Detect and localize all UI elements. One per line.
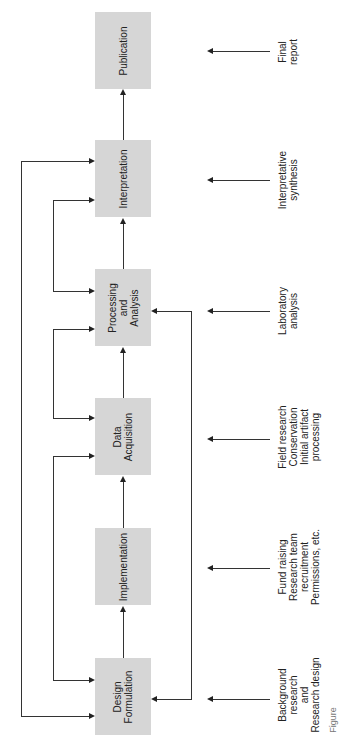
stage-label: Design Formulation: [112, 670, 134, 723]
stage-label: Interpretation: [118, 149, 129, 208]
arrowhead-left-icon: [207, 436, 213, 442]
arrowhead-left-icon: [151, 696, 157, 702]
stage-label: Publication: [118, 26, 129, 75]
feedback-line: [157, 311, 191, 312]
stage-label: Processing and Analysis: [107, 283, 140, 332]
arrowhead-right-icon: [89, 288, 95, 294]
arrowhead-right-icon: [89, 158, 95, 164]
feedback-line: [157, 699, 191, 700]
arrowhead-right-icon: [89, 326, 95, 332]
figure-caption-text: Figure: [328, 707, 338, 733]
arrowhead-up-icon: [120, 476, 126, 482]
input-label-text: Interpretative synthesis: [277, 151, 299, 209]
arrowhead-up-icon: [120, 89, 126, 95]
input-arrow-line: [213, 51, 270, 52]
feedback-line: [53, 456, 89, 457]
feedback-loop-interp-proc: [53, 200, 54, 292]
stage-box-processing: Processing and Analysis: [95, 269, 151, 346]
arrowhead-up-icon: [120, 606, 126, 612]
arrowhead-left-icon: [207, 177, 213, 183]
feedback-loop-acq-design: [53, 456, 54, 681]
stage-box-design: Design Formulation: [95, 658, 151, 735]
feedback-line: [53, 329, 89, 330]
input-arrow-line: [213, 180, 270, 181]
feedback-line: [53, 418, 89, 419]
arrowhead-up-icon: [120, 347, 126, 353]
feedback-loop-proc-acq: [53, 329, 54, 419]
input-arrow-line: [213, 568, 270, 569]
feedback-line: [53, 680, 89, 681]
input-label-text: Field research Conservation Initial arti…: [277, 405, 321, 468]
arrowhead-right-icon: [89, 677, 95, 683]
input-label-text: Laboratory analysis: [277, 287, 299, 335]
flow-line-design-to-impl: [123, 612, 124, 658]
arrowhead-up-icon: [120, 218, 126, 224]
arrowhead-right-icon: [89, 415, 95, 421]
stage-label: Implementation: [118, 532, 129, 600]
arrowhead-left-icon: [207, 565, 213, 571]
flow-line-acq-to-proc: [123, 353, 124, 398]
arrowhead-left-icon: [151, 308, 157, 314]
input-arrow-line: [213, 699, 270, 700]
arrowhead-left-icon: [207, 308, 213, 314]
feedback-line: [53, 291, 89, 292]
input-arrow-line: [213, 311, 270, 312]
input-label-text: Fund raising Research team recruitment P…: [277, 529, 321, 605]
arrowhead-right-icon: [89, 453, 95, 459]
flow-line-impl-to-acq: [123, 482, 124, 528]
arrowhead-left-icon: [207, 48, 213, 54]
input-label-text: Background research and Research design: [277, 657, 321, 732]
arrowhead-right-icon: [89, 713, 95, 719]
input-arrow-line: [213, 439, 270, 440]
stage-box-interpretation: Interpretation: [95, 140, 151, 217]
feedback-loop-right: [191, 311, 192, 700]
feedback-line: [21, 716, 89, 717]
flow-line-proc-to-interp: [123, 224, 124, 269]
stage-box-publication: Publication: [95, 12, 151, 89]
flow-line-interp-to-pub: [123, 95, 124, 140]
feedback-line: [21, 161, 89, 162]
arrowhead-left-icon: [207, 696, 213, 702]
stage-box-implementation: Implementation: [95, 528, 151, 605]
stage-label: Data Acquisition: [112, 412, 134, 460]
arrowhead-right-icon: [89, 197, 95, 203]
feedback-line: [53, 200, 89, 201]
stage-box-acquisition: Data Acquisition: [95, 398, 151, 475]
input-label-text: Final report: [277, 39, 299, 65]
feedback-loop-outer: [21, 161, 22, 717]
